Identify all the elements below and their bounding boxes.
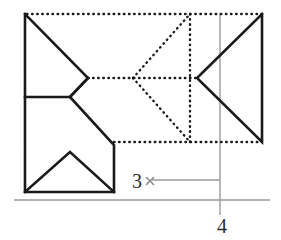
figure-canvas: 3 4 [0, 0, 281, 240]
label-4-text: 4 [217, 215, 227, 237]
label-3-text: 3 [132, 170, 142, 192]
geometric-figure-container: 3 4 [0, 0, 281, 240]
